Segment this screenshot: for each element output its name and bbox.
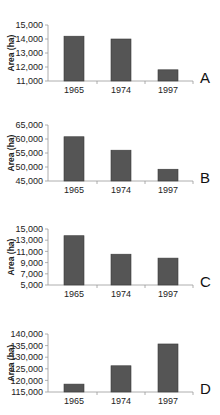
y-tick-label: 65,000	[15, 120, 43, 130]
y-axis-label: Area (ha)	[6, 134, 16, 171]
bar-1997	[158, 344, 178, 392]
x-tick-label: 1997	[158, 85, 178, 95]
y-tick-label: 15,000	[15, 224, 43, 234]
y-axis-label: Area (ha)	[6, 344, 16, 381]
bar-1974	[111, 39, 131, 81]
x-tick-label: 1974	[111, 289, 131, 299]
chart-panel-c: 5,0007,0009,00011,00013,00015,0001965197…	[6, 224, 211, 299]
bar-1974	[111, 150, 131, 181]
bar-1974	[111, 366, 131, 392]
y-tick-label: 13,000	[15, 235, 43, 245]
bar-1997	[158, 258, 178, 285]
y-tick-label: 15,000	[15, 20, 43, 30]
chart-panel-b: 45,00050,00055,00060,00065,0001965197419…	[6, 120, 210, 195]
y-tick-label: 45,000	[15, 176, 43, 186]
panel-label: A	[200, 69, 210, 86]
x-tick-label: 1965	[64, 185, 84, 195]
x-tick-label: 1974	[111, 396, 131, 406]
x-tick-label: 1997	[158, 289, 178, 299]
panel-label: C	[200, 273, 211, 290]
y-tick-label: 50,000	[15, 162, 43, 172]
y-tick-label: 5,000	[20, 280, 43, 290]
y-tick-label: 12,000	[15, 62, 43, 72]
y-tick-label: 55,000	[15, 148, 43, 158]
bar-1965	[64, 36, 84, 81]
y-tick-label: 9,000	[20, 258, 43, 268]
chart-panel-a: 11,00012,00013,00014,00015,0001965197419…	[6, 20, 210, 95]
chart-panel-d: 115,000120,000125,000130,000135,000140,0…	[6, 329, 211, 406]
y-tick-label: 11,000	[16, 76, 43, 86]
x-tick-label: 1965	[64, 289, 84, 299]
x-tick-label: 1965	[64, 396, 84, 406]
y-tick-label: 7,000	[20, 269, 43, 279]
x-tick-label: 1974	[111, 185, 131, 195]
x-tick-label: 1965	[64, 85, 84, 95]
y-axis-label: Area (ha)	[6, 238, 16, 275]
x-tick-label: 1997	[158, 396, 178, 406]
bar-1997	[158, 169, 178, 181]
bar-1974	[111, 254, 131, 285]
y-tick-label: 60,000	[15, 134, 43, 144]
x-tick-label: 1974	[111, 85, 131, 95]
x-tick-label: 1997	[158, 185, 178, 195]
figure-panels: 11,00012,00013,00014,00015,0001965197419…	[0, 0, 220, 415]
bar-1997	[158, 70, 178, 81]
bar-1965	[64, 137, 84, 181]
y-tick-label: 14,000	[15, 34, 43, 44]
y-tick-label: 115,000	[11, 387, 43, 397]
y-tick-label: 140,000	[10, 329, 43, 339]
y-axis-label: Area (ha)	[6, 34, 16, 71]
y-tick-label: 11,000	[16, 247, 43, 257]
y-tick-label: 13,000	[15, 48, 43, 58]
panel-label: D	[200, 380, 211, 397]
bar-1965	[64, 236, 84, 285]
bar-1965	[64, 384, 84, 392]
panel-label: B	[200, 169, 210, 186]
